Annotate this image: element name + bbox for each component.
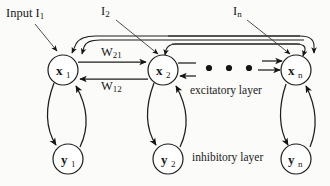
node-xn-label: x <box>288 63 295 78</box>
ellipsis-dot-1 <box>206 65 212 71</box>
input-pointer-n <box>247 20 290 54</box>
inhibitory-layer-label: inhibitory layer <box>192 152 263 164</box>
input-pointer-2 <box>116 20 158 54</box>
node-xn-sub: n <box>298 70 303 80</box>
weight-label-21-sub: 21 <box>113 50 122 60</box>
weight-label-21-text: W <box>101 45 113 59</box>
neural-network-diagram: x 1 x 2 x n y 1 y 2 y n Input I1 I2 In W… <box>0 0 330 186</box>
node-x2-label: x <box>156 63 163 78</box>
node-yn-sub: n <box>298 159 303 169</box>
input-label-2: I2 <box>101 5 110 19</box>
node-x2[interactable] <box>148 55 178 85</box>
edge-y1-to-x1 <box>76 86 86 147</box>
edge-x2-to-y2 <box>147 83 156 145</box>
input-label-n: In <box>233 5 242 19</box>
node-y1[interactable] <box>53 144 83 174</box>
weight-label-12: W12 <box>101 80 122 94</box>
ellipsis-dots <box>206 65 252 71</box>
excitatory-inhibitory-loops <box>47 83 315 147</box>
input-label-2-sub: 2 <box>105 9 110 19</box>
ellipsis-dot-2 <box>226 65 232 71</box>
node-y2-label: y <box>161 152 168 167</box>
input-label-1: Input I1 <box>6 7 44 21</box>
diagram-canvas: x 1 x 2 x n y 1 y 2 y n <box>0 0 330 186</box>
weight-label-21: W21 <box>101 46 122 60</box>
node-yn[interactable] <box>281 144 311 174</box>
node-x1-sub: 1 <box>66 70 71 80</box>
input-label-1-text: Input I <box>6 6 40 20</box>
node-x1[interactable] <box>48 55 78 85</box>
edge-xn-to-yn <box>280 84 288 145</box>
edge-y2-to-x2 <box>176 86 186 147</box>
node-group-inhibitory <box>53 144 311 174</box>
excitatory-layer-label: excitatory layer <box>190 85 262 97</box>
weight-label-12-sub: 12 <box>113 84 122 94</box>
node-x2-sub: 2 <box>166 70 171 80</box>
weight-label-12-text: W <box>101 79 113 93</box>
node-y2-sub: 2 <box>171 159 176 169</box>
node-y2[interactable] <box>153 144 183 174</box>
node-y1-label: y <box>61 152 68 167</box>
node-y1-sub: 1 <box>71 159 76 169</box>
input-label-n-sub: n <box>237 9 242 19</box>
edge-yn-to-xn <box>306 86 315 147</box>
node-x1-label: x <box>56 63 63 78</box>
input-label-1-sub: 1 <box>40 11 45 21</box>
node-xn[interactable] <box>281 55 311 85</box>
node-yn-label: y <box>288 152 295 167</box>
lateral-connections <box>78 61 282 79</box>
ellipsis-dot-3 <box>246 65 252 71</box>
input-pointer-1 <box>35 24 57 51</box>
edge-x1-to-y1 <box>47 83 56 145</box>
